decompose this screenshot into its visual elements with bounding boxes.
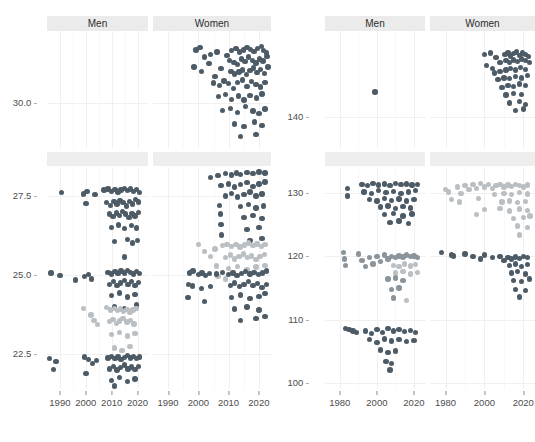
data-point <box>244 180 249 185</box>
data-point <box>411 338 416 343</box>
gridline-vertical <box>229 168 230 389</box>
data-point <box>109 293 114 298</box>
data-point <box>513 74 518 79</box>
data-point <box>513 108 518 113</box>
data-point <box>507 198 512 203</box>
data-point <box>250 184 255 189</box>
data-point <box>490 255 495 260</box>
data-point <box>53 359 58 364</box>
data-point <box>211 80 216 85</box>
data-point <box>517 294 522 299</box>
gridline-vertical <box>60 168 61 389</box>
data-point <box>253 193 258 198</box>
y-tick-text: 110 <box>288 314 303 325</box>
data-point <box>382 196 387 201</box>
data-point <box>413 330 418 335</box>
data-point <box>342 256 347 261</box>
data-point <box>243 104 248 109</box>
data-point <box>476 196 481 201</box>
facet-strip-row2-women <box>430 152 535 166</box>
data-point <box>400 278 405 283</box>
data-point <box>466 187 471 192</box>
data-point <box>136 210 141 215</box>
y-axis-tick-label: 22.5- <box>13 350 37 360</box>
tick-mark-icon <box>112 391 113 395</box>
data-point <box>356 251 361 256</box>
data-point <box>387 220 392 225</box>
data-point <box>190 283 195 288</box>
data-point <box>244 227 249 232</box>
data-point <box>57 273 62 278</box>
data-point <box>244 304 249 309</box>
data-point <box>363 328 368 333</box>
gridline-horizontal <box>325 320 425 321</box>
data-point <box>521 106 526 111</box>
y-tick-text: 25.0 <box>13 270 32 281</box>
facet-strip-label: Men <box>365 19 384 29</box>
data-point <box>517 206 522 211</box>
gridline-vertical-minor <box>395 31 396 148</box>
data-point <box>376 182 381 187</box>
tick-dash-icon: - <box>34 350 37 360</box>
data-point <box>385 276 390 281</box>
data-point <box>393 275 398 280</box>
data-point <box>260 58 265 63</box>
x-tick-text: 2020 <box>513 397 534 408</box>
gridline-horizontal <box>325 117 425 118</box>
data-point <box>517 99 522 104</box>
y-axis-tick-label: 130- <box>287 189 309 199</box>
gridline-vertical-minor <box>99 31 100 148</box>
data-point <box>385 350 390 355</box>
data-point <box>256 307 261 312</box>
gridline-vertical <box>523 31 524 148</box>
panel-women-row0 <box>153 31 271 148</box>
data-point <box>218 211 223 216</box>
x-tick-text: 1990 <box>49 397 70 408</box>
gridline-vertical <box>112 31 113 148</box>
data-point <box>244 170 249 175</box>
data-point <box>235 194 240 199</box>
data-point <box>130 201 135 206</box>
facet-strip-row2-men <box>47 152 148 166</box>
data-point <box>389 338 394 343</box>
x-axis-tick-label: 1980 <box>435 398 456 408</box>
gridline-vertical <box>138 31 139 148</box>
data-point <box>238 204 243 209</box>
data-point <box>497 206 502 211</box>
data-point <box>231 86 236 91</box>
data-point <box>389 287 394 292</box>
data-point <box>136 280 141 285</box>
data-point <box>228 106 233 111</box>
data-point <box>127 344 132 349</box>
tick-mark-icon <box>377 391 378 395</box>
data-point <box>252 119 257 124</box>
tick-mark-icon <box>138 391 139 395</box>
y-axis-bmi: 30.0-27.5-25.0-22.5- <box>0 0 44 442</box>
data-point <box>515 269 520 274</box>
data-point <box>119 348 124 353</box>
data-point <box>247 296 252 301</box>
facet-strip-label: Women <box>465 19 499 29</box>
data-point <box>218 66 223 71</box>
data-point <box>451 253 456 258</box>
gridline-vertical-minor <box>465 168 466 389</box>
data-point <box>238 134 243 139</box>
data-point <box>509 192 514 197</box>
data-point <box>196 242 201 247</box>
panel-men-row1 <box>325 168 425 389</box>
gridline-vertical <box>168 31 169 148</box>
data-point <box>354 330 359 335</box>
data-point <box>109 378 114 383</box>
data-point <box>125 333 130 338</box>
data-point <box>383 190 388 195</box>
tick-mark-icon <box>523 391 524 395</box>
data-point <box>367 255 372 260</box>
data-point <box>262 170 267 175</box>
data-point <box>525 262 530 267</box>
facet-strip-men: Men <box>325 16 425 31</box>
data-point <box>457 199 462 204</box>
data-point <box>214 49 219 54</box>
data-point <box>259 236 264 241</box>
data-point <box>507 263 512 268</box>
data-point <box>511 216 516 221</box>
